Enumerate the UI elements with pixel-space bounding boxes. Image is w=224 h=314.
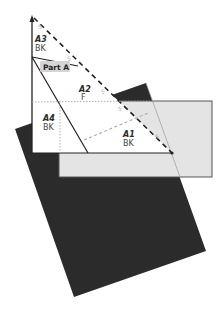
region-a4-id: A4 <box>42 114 55 123</box>
folding-diagram: ½ ½ ½ ½ ½ Part A A3 BK A2 F A4 BK A1 BK <box>0 0 224 314</box>
region-a3-id: A3 <box>34 35 47 44</box>
part-a-label: Part A <box>43 63 69 72</box>
region-a3-sub: BK <box>35 44 46 53</box>
region-a2-sub: F <box>81 93 86 102</box>
region-a4-sub: BK <box>43 123 54 132</box>
fold-end-point <box>170 151 173 154</box>
region-a1-id: A1 <box>122 130 135 139</box>
region-a1-sub: BK <box>123 139 134 148</box>
